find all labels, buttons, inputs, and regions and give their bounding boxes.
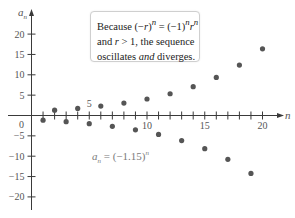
data-point bbox=[156, 132, 161, 137]
data-point bbox=[202, 146, 207, 151]
x-tick-label: 5 bbox=[87, 98, 92, 109]
data-point bbox=[87, 121, 92, 126]
y-tick-label: 15 bbox=[15, 49, 25, 60]
annotation-line-2: and r > 1, the sequence bbox=[97, 34, 199, 49]
data-point bbox=[179, 138, 184, 143]
data-point bbox=[64, 119, 69, 124]
data-point bbox=[133, 127, 138, 132]
data-point bbox=[225, 157, 230, 162]
data-point bbox=[110, 124, 115, 129]
data-point bbox=[214, 75, 219, 80]
data-point bbox=[144, 96, 149, 101]
x-tick-label: 20 bbox=[258, 120, 268, 131]
data-point bbox=[121, 100, 126, 105]
y-tick-label: 10 bbox=[15, 69, 25, 80]
data-point bbox=[52, 108, 57, 113]
y-tick-label: 5 bbox=[20, 90, 25, 101]
x-ticks: 5101520 bbox=[43, 98, 267, 131]
y-tick-label: −5 bbox=[14, 130, 25, 141]
x-axis-label: n bbox=[285, 109, 291, 121]
data-point bbox=[168, 91, 173, 96]
x-tick-label: 15 bbox=[200, 120, 210, 131]
y-tick-label: −10 bbox=[9, 151, 25, 162]
data-points bbox=[40, 46, 265, 176]
y-tick-label: −15 bbox=[9, 171, 25, 182]
y-tick-label: 20 bbox=[15, 29, 25, 40]
annotation-box: Because (−r)n = (−1)nrn and r > 1, the s… bbox=[90, 11, 200, 62]
formula-label: an = (−1.15)n bbox=[92, 149, 149, 165]
x-axis-arrow-icon bbox=[277, 113, 284, 118]
origin-label: 0 bbox=[19, 119, 24, 130]
data-point bbox=[248, 171, 253, 176]
data-point bbox=[98, 103, 103, 108]
annotation-line-1: Because (−r)n = (−1)nrn bbox=[97, 15, 199, 34]
data-point bbox=[191, 84, 196, 89]
data-point bbox=[40, 118, 45, 123]
data-point bbox=[75, 106, 80, 111]
y-tick-label: −20 bbox=[9, 191, 25, 202]
y-axis-label: an bbox=[18, 6, 28, 21]
data-point bbox=[260, 46, 265, 51]
annotation-line-3: oscillates and diverges. bbox=[97, 49, 199, 64]
x-tick-label: 10 bbox=[142, 120, 152, 131]
y-axis-arrow-icon bbox=[29, 9, 34, 16]
data-point bbox=[237, 63, 242, 68]
